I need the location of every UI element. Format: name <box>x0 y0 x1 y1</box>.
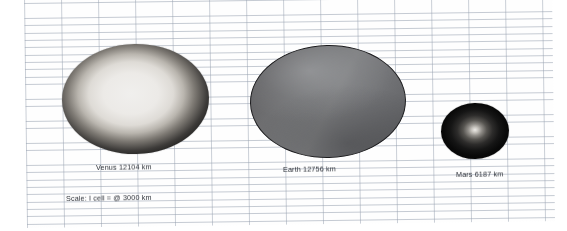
planet-label-mars: Mars 6187 km <box>456 169 503 179</box>
diagram-canvas: Venus 12104 km Earth 12756 km Mars 6187 … <box>0 0 567 231</box>
planet-label-venus: Venus 12104 km <box>96 162 152 172</box>
planet-label-earth: Earth 12756 km <box>283 164 336 174</box>
scale-note: Scale: I cell = @ 3000 km <box>66 193 152 203</box>
